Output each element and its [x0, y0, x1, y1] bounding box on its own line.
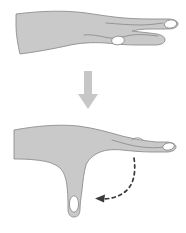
- fingernail-flexed-finger: [69, 196, 78, 212]
- panel-bottom-flexed-hand: [14, 125, 176, 217]
- hand-silhouette-flexed: [14, 125, 176, 217]
- figure-container: [0, 0, 186, 233]
- motion-arrow: [95, 158, 135, 203]
- hand-silhouette-extended: [16, 11, 178, 54]
- hand-flexion-illustration: [0, 0, 186, 233]
- motion-arrowhead-icon: [95, 195, 105, 203]
- arrow-down-icon: [78, 71, 98, 109]
- panel-top-extended-hand: [16, 11, 178, 54]
- motion-arrow-curve: [102, 158, 135, 199]
- transition-arrow: [78, 71, 98, 109]
